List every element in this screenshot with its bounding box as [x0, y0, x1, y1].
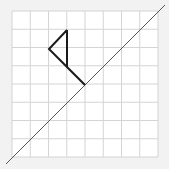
grid-diagram	[0, 0, 169, 169]
diagram-canvas	[0, 0, 169, 169]
